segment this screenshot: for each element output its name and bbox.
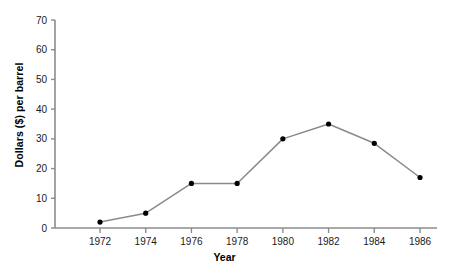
data-point [189,181,194,186]
x-tick-label: 1986 [409,236,432,247]
x-tick-label: 1976 [180,236,203,247]
y-tick-label: 20 [36,163,48,174]
data-point [372,141,377,146]
x-tick-label: 1978 [226,236,249,247]
x-axis-ticks: 19721974197619781980198219841986 [89,228,432,247]
data-point [417,175,422,180]
data-point [235,181,240,186]
y-tick-label: 30 [36,133,48,144]
y-tick-label: 0 [41,223,47,234]
data-point-markers [97,121,422,224]
y-axis-ticks: 010203040506070 [36,15,55,234]
data-series-line [100,124,420,222]
data-point [280,136,285,141]
data-point [143,211,148,216]
x-tick-label: 1984 [363,236,386,247]
x-axis-title: Year [0,251,449,263]
x-tick-label: 1982 [317,236,340,247]
x-tick-label: 1980 [272,236,295,247]
data-point [97,219,102,224]
data-point [326,121,331,126]
y-tick-label: 10 [36,193,48,204]
x-tick-label: 1972 [89,236,112,247]
y-tick-label: 40 [36,104,48,115]
line-chart-plot: 010203040506070 197219741976197819801982… [0,0,449,274]
y-tick-label: 50 [36,74,48,85]
x-tick-label: 1974 [135,236,158,247]
chart-container: Dollars ($) per barrel 010203040506070 1… [0,0,449,274]
y-tick-label: 70 [36,15,48,26]
y-tick-label: 60 [36,44,48,55]
